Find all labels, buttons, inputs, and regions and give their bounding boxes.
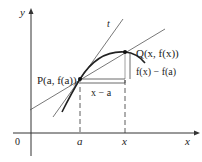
point-p-label: P(a, f(a)) [37,74,77,87]
tick-x-label: x [121,135,127,147]
tangent-label: t [107,18,110,29]
x-axis-arrow [194,131,200,136]
point-p [78,77,82,81]
x-axis-label: x [184,135,190,147]
y-axis-label: y [19,6,25,18]
secant-tangent-diagram: y x 0 t P(a, f(a)) Q(x, f(x)) x − a f(x)… [0,0,202,162]
tick-a-label: a [77,135,83,147]
point-q [123,50,127,54]
dx-label: x − a [91,87,112,98]
dy-label: f(x) − f(a) [136,66,176,78]
origin-label: 0 [15,136,20,147]
y-axis-arrow [29,8,34,14]
point-q-label: Q(x, f(x)) [136,47,179,60]
